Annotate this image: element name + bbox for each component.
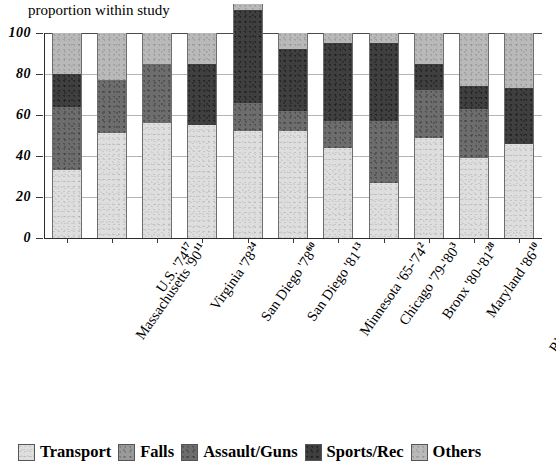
- y-tick-label: 40: [0, 148, 31, 164]
- bar-segment[interactable]: [233, 10, 263, 102]
- legend-item[interactable]: Transport: [18, 442, 111, 462]
- y-tick-label: 80: [0, 66, 31, 82]
- bar-segment[interactable]: [52, 33, 82, 74]
- bar-segment[interactable]: [414, 33, 444, 64]
- bar-segment[interactable]: [52, 74, 82, 107]
- bars-layer: [44, 33, 542, 238]
- bar-segment[interactable]: [504, 144, 534, 238]
- y-tick-label: 60: [0, 107, 31, 123]
- legend-swatch: [181, 444, 198, 461]
- bar-segment[interactable]: [504, 88, 534, 143]
- bar-segment[interactable]: [369, 33, 399, 43]
- bar-segment[interactable]: [459, 33, 489, 86]
- bar-segment[interactable]: [187, 33, 217, 64]
- bar-segment[interactable]: [142, 64, 172, 123]
- legend-label: Sports/Rec: [327, 442, 404, 462]
- x-axis-label: Virginia '7824: [206, 240, 264, 313]
- bar-segment[interactable]: [278, 33, 308, 49]
- plot-area: [44, 33, 542, 238]
- y-axis-ticks: 020406080100: [0, 33, 44, 238]
- bar-segment[interactable]: [414, 64, 444, 91]
- bar-column[interactable]: [278, 33, 308, 238]
- bar-segment[interactable]: [187, 125, 217, 238]
- x-label-superscript: 13: [349, 240, 362, 253]
- y-tick-mark: [36, 74, 43, 75]
- legend-item[interactable]: Assault/Guns: [181, 442, 297, 462]
- legend-item[interactable]: Falls: [118, 442, 174, 462]
- legend-swatch: [305, 444, 322, 461]
- x-label-superscript: 2: [415, 240, 426, 249]
- bar-column[interactable]: [459, 33, 489, 238]
- bar-segment[interactable]: [97, 33, 127, 80]
- legend-label: Assault/Guns: [203, 442, 297, 462]
- bar-segment[interactable]: [142, 33, 172, 64]
- y-tick-label: 20: [0, 189, 31, 205]
- bar-segment[interactable]: [369, 43, 399, 121]
- bar-segment[interactable]: [278, 111, 308, 132]
- bar-column[interactable]: [142, 33, 172, 238]
- bar-column[interactable]: [233, 33, 263, 238]
- x-label-superscript: 24: [245, 240, 258, 253]
- bar-segment[interactable]: [52, 107, 82, 171]
- bar-segment[interactable]: [323, 148, 353, 238]
- bar-segment[interactable]: [459, 86, 489, 109]
- legend-label: Others: [433, 442, 482, 462]
- bar-segment[interactable]: [459, 109, 489, 158]
- legend-swatch: [18, 444, 35, 461]
- bar-segment[interactable]: [52, 170, 82, 238]
- y-axis-title: proportion within study: [28, 2, 170, 19]
- bar-column[interactable]: [323, 33, 353, 238]
- legend-label: Falls: [140, 442, 174, 462]
- bar-segment[interactable]: [187, 64, 217, 126]
- x-label-superscript: 17: [178, 240, 191, 253]
- bar-column[interactable]: [97, 33, 127, 238]
- x-label-superscript: 28: [482, 240, 495, 253]
- bar-segment[interactable]: [369, 183, 399, 238]
- bar-column[interactable]: [504, 33, 534, 238]
- x-label-superscript: 60: [304, 240, 317, 253]
- x-axis-label: Massachusetts '9011: [131, 240, 210, 342]
- y-tick-mark: [36, 197, 43, 198]
- legend-swatch: [118, 444, 135, 461]
- bar-column[interactable]: [369, 33, 399, 238]
- bar-column[interactable]: [414, 33, 444, 238]
- bar-segment[interactable]: [414, 90, 444, 137]
- x-label-superscript: 10: [526, 240, 539, 253]
- legend-item[interactable]: Others: [411, 442, 482, 462]
- bar-segment[interactable]: [323, 121, 353, 148]
- bar-segment[interactable]: [414, 138, 444, 238]
- bar-segment[interactable]: [504, 33, 534, 88]
- bar-column[interactable]: [52, 33, 82, 238]
- bar-segment[interactable]: [459, 158, 489, 238]
- bar-segment[interactable]: [278, 49, 308, 111]
- y-tick-label: 100: [0, 25, 31, 41]
- legend-item[interactable]: Sports/Rec: [305, 442, 404, 462]
- bar-segment[interactable]: [323, 33, 353, 43]
- bar-segment[interactable]: [369, 121, 399, 183]
- stacked-bar-chart: proportion within study 020406080100 Mas…: [0, 0, 556, 470]
- x-axis-label: Rhode Island '79-'8027: [545, 240, 556, 355]
- bar-segment[interactable]: [142, 123, 172, 238]
- bar-column[interactable]: [187, 33, 217, 238]
- bar-segment[interactable]: [97, 133, 127, 238]
- bar-segment[interactable]: [233, 131, 263, 238]
- bar-segment[interactable]: [278, 131, 308, 238]
- legend-swatch: [411, 444, 428, 461]
- y-tick-mark: [36, 33, 43, 34]
- legend: TransportFallsAssault/GunsSports/RecOthe…: [18, 440, 548, 464]
- bar-segment[interactable]: [97, 80, 127, 133]
- x-label-superscript: 3: [447, 240, 458, 249]
- legend-label: Transport: [40, 442, 111, 462]
- x-axis-labels: Massachusetts '9011U.S. '7417Virginia '7…: [0, 238, 556, 423]
- bar-segment[interactable]: [233, 4, 263, 10]
- y-tick-mark: [36, 156, 43, 157]
- y-tick-mark: [36, 115, 43, 116]
- bar-segment[interactable]: [323, 43, 353, 121]
- bar-segment[interactable]: [233, 103, 263, 132]
